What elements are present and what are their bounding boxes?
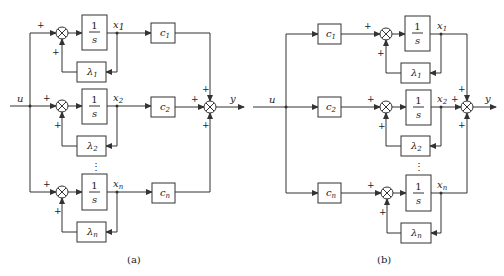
input-gain-c1: c1 <box>318 24 341 44</box>
svg-text:+: + <box>451 94 459 104</box>
svg-text:+: + <box>54 120 62 130</box>
summing-junction-1 <box>380 28 392 40</box>
row-1: + 1 s x1 c1 + <box>30 15 210 101</box>
svg-text:s: s <box>92 34 97 45</box>
feedback-gain-lambda1: λ1 <box>77 62 106 82</box>
feedback-gain-lambda2: λ2 <box>401 136 430 156</box>
svg-text:1: 1 <box>91 94 97 105</box>
row-n: + 1 s xn cn + <box>30 113 210 242</box>
svg-text:+: + <box>377 48 385 58</box>
summing-junction-n <box>56 186 68 198</box>
state-label-xn: xn <box>437 179 448 192</box>
panel-b: u c1 + 1 s x1 + <box>253 16 496 265</box>
svg-text:s: s <box>416 109 421 120</box>
svg-text:s: s <box>415 35 420 46</box>
svg-text:s: s <box>416 195 421 206</box>
svg-text:+: + <box>43 179 51 189</box>
svg-text:+: + <box>43 93 51 103</box>
svg-text:+: + <box>364 21 372 31</box>
svg-text:1: 1 <box>91 180 97 191</box>
row-2: c2 + 1 s x2 + λ2 <box>286 90 461 156</box>
state-label-x2: x2 <box>437 93 448 106</box>
input-label-u: u <box>17 93 23 104</box>
svg-text:s: s <box>92 194 97 205</box>
output-label-y: y <box>484 93 491 104</box>
ellipsis: ⋮ <box>91 161 101 172</box>
plus-sign: + <box>37 20 45 30</box>
state-label-xn: xn <box>113 178 124 191</box>
input-gain-c2: c2 <box>318 97 341 117</box>
output-gain-c1: c1 <box>151 23 175 43</box>
svg-text:+: + <box>367 180 375 190</box>
output-summing-junction <box>461 101 473 113</box>
svg-text:1: 1 <box>91 20 97 31</box>
state-label-x1: x1 <box>113 19 124 32</box>
svg-text:+: + <box>378 121 386 131</box>
block-diagram-figure: u + 1 s x1 c1 <box>0 0 504 276</box>
output-label-y: y <box>229 93 236 104</box>
svg-text:+: + <box>202 120 210 130</box>
integrator-block-1: 1 s <box>405 16 430 51</box>
svg-text:s: s <box>92 108 97 119</box>
row-2: + 1 s x2 c2 + <box>30 89 204 156</box>
caption-a: (a) <box>127 254 141 265</box>
svg-text:+: + <box>191 94 199 104</box>
svg-text:+: + <box>458 120 466 130</box>
input-label-u: u <box>269 94 275 105</box>
integrator-block-n: 1 s <box>82 174 107 210</box>
caption-b: (b) <box>377 254 391 265</box>
integrator-block-1: 1 s <box>82 15 107 50</box>
output-summing-junction <box>204 101 216 113</box>
svg-text:+: + <box>202 84 210 94</box>
svg-text:+: + <box>458 84 466 94</box>
output-gain-c2: c2 <box>151 97 175 117</box>
row-n: cn + 1 s xn + λn <box>286 113 467 243</box>
svg-text:+: + <box>367 94 375 104</box>
feedback-gain-lambda2: λ2 <box>77 136 106 156</box>
integrator-block-2: 1 s <box>406 90 431 125</box>
state-label-x2: x2 <box>113 92 124 105</box>
svg-text:+: + <box>379 207 387 217</box>
panel-a: u + 1 s x1 c1 <box>10 15 244 265</box>
svg-text:1: 1 <box>415 95 421 106</box>
row-1: c1 + 1 s x1 + λ1 <box>286 16 467 101</box>
feedback-gain-lambda1: λ1 <box>401 63 430 83</box>
input-gain-cn: cn <box>318 183 341 203</box>
svg-text:+: + <box>52 47 60 57</box>
feedback-gain-lambdan: λn <box>77 222 106 242</box>
output-gain-cn: cn <box>152 183 175 203</box>
summing-junction-2 <box>56 100 68 112</box>
svg-text:1: 1 <box>414 21 420 32</box>
svg-text:1: 1 <box>415 181 421 192</box>
ellipsis: ⋮ <box>414 161 424 172</box>
summing-junction-1 <box>56 27 68 39</box>
feedback-gain-lambdan: λn <box>401 223 431 243</box>
summing-junction-n <box>381 187 393 199</box>
integrator-block-n: 1 s <box>406 175 431 211</box>
integrator-block-2: 1 s <box>82 89 107 124</box>
svg-text:+: + <box>54 206 62 216</box>
summing-junction-2 <box>380 101 392 113</box>
state-label-x1: x1 <box>437 20 447 33</box>
